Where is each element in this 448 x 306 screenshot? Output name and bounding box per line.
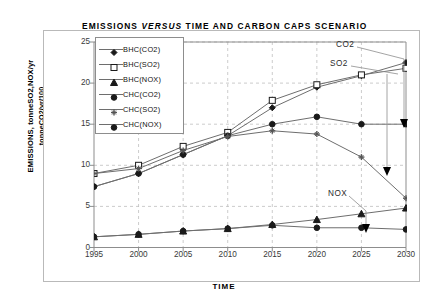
x-tick-label: 2005 bbox=[160, 250, 206, 259]
x-tick-label: 2015 bbox=[249, 250, 295, 259]
so2-arrow-icon bbox=[383, 167, 391, 176]
co2-annotation: CO2 bbox=[336, 40, 354, 49]
x-tick-label: 2010 bbox=[205, 250, 251, 259]
legend-marker-triangle-filled-icon bbox=[99, 75, 123, 85]
y-tick-label: 20 bbox=[50, 78, 90, 87]
legend-item-bhcnox[interactable]: BHC(NOX) bbox=[96, 72, 183, 87]
x-tick-label: 1995 bbox=[71, 250, 117, 259]
legend-marker-circle-filled-icon bbox=[99, 120, 123, 130]
x-tick-label: 2020 bbox=[294, 250, 340, 259]
so2-annotation: SO2 bbox=[330, 59, 348, 68]
legend-item-chcso2[interactable]: CHC(SO2) bbox=[96, 102, 183, 117]
legend-item-bhcco2[interactable]: BHC(CO2) bbox=[96, 42, 183, 57]
chart-figure: EMISSIONS VERSUS TIME AND CARBON CAPS SC… bbox=[0, 0, 448, 306]
legend-marker-diamond-filled-icon bbox=[99, 45, 123, 55]
legend-label: CHC(CO2) bbox=[123, 90, 161, 99]
x-tick-label: 2025 bbox=[338, 250, 384, 259]
legend-marker-square-open-icon bbox=[99, 60, 123, 70]
y-tick-label: 25 bbox=[50, 37, 90, 46]
series-chcnox bbox=[91, 223, 409, 240]
legend-item-chcnox[interactable]: CHC(NOX) bbox=[96, 117, 183, 132]
annotation-leader-lines bbox=[349, 47, 408, 233]
legend-marker-circle-filled-icon bbox=[99, 90, 123, 100]
nox-annotation: NOX bbox=[328, 189, 347, 198]
legend-label: BHC(SO2) bbox=[123, 60, 160, 69]
legend-item-bhcso2[interactable]: BHC(SO2) bbox=[96, 57, 183, 72]
chart-legend: BHC(CO2)BHC(SO2)BHC(NOX)CHC(CO2)CHC(SO2)… bbox=[95, 37, 184, 134]
x-tick-label: 2000 bbox=[116, 250, 162, 259]
y-tick-label: 15 bbox=[50, 119, 90, 128]
y-tick-marks bbox=[90, 42, 94, 248]
legend-label: CHC(SO2) bbox=[123, 105, 160, 114]
legend-marker-asterisk-icon bbox=[99, 105, 123, 115]
legend-label: BHC(NOX) bbox=[123, 75, 161, 84]
legend-label: BHC(CO2) bbox=[123, 45, 160, 54]
y-tick-label: 5 bbox=[50, 201, 90, 210]
y-tick-label: 10 bbox=[50, 160, 90, 169]
legend-item-chcco2[interactable]: CHC(CO2) bbox=[96, 87, 183, 102]
legend-label: CHC(NOX) bbox=[123, 120, 162, 129]
x-tick-label: 2030 bbox=[383, 250, 429, 259]
